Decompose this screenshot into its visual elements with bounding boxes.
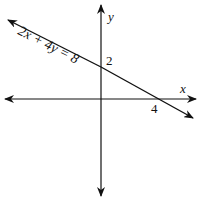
x-intercept-label: 4 [151,102,158,115]
y-axis-label: y [108,10,114,23]
graph: 2x + 4y = 8 y x 2 4 [0,0,201,202]
y-intercept-label: 2 [106,54,113,67]
x-axis-label: x [180,82,186,95]
